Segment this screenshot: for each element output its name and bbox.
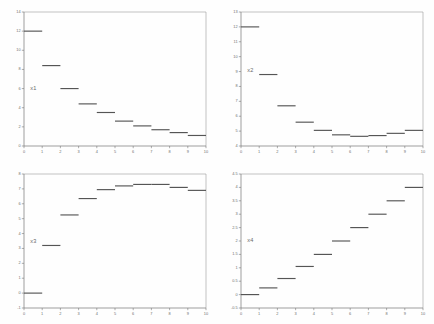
y-tick-label: 2	[235, 238, 237, 243]
x-tick-label: 8	[386, 311, 388, 316]
x-tick-label: 10	[421, 311, 426, 316]
x-tick-label: 5	[114, 311, 116, 316]
y-tick-label: 5	[235, 128, 237, 133]
x-tick-label: 9	[187, 149, 189, 154]
x-tick-label: 8	[386, 149, 388, 154]
x-tick-label: 4	[96, 311, 99, 316]
y-tick-label: 6	[18, 86, 20, 91]
y-tick-label: 2	[18, 260, 20, 265]
series-x1	[24, 31, 206, 135]
y-tick-label: 14	[16, 9, 21, 14]
x-tick-label: 10	[204, 149, 209, 154]
x-tick-label: 1	[41, 149, 43, 154]
y-tick-label: 13	[233, 9, 237, 14]
x-tick-label: 4	[313, 149, 316, 154]
y-tick-label: 6	[235, 113, 237, 118]
x-tick-label: 4	[96, 149, 99, 154]
y-tick-label: -1	[17, 305, 20, 310]
x-tick-label: 2	[59, 149, 61, 154]
y-tick-label: 5	[18, 216, 20, 221]
x-tick-label: 1	[258, 311, 260, 316]
y-tick-label: 4	[235, 184, 238, 189]
series-label-x3: x3	[30, 238, 36, 244]
x-tick-label: 0	[240, 311, 243, 316]
y-tick-label: 6	[18, 201, 20, 206]
plot-frame	[241, 12, 423, 146]
y-tick-label: 0	[235, 292, 238, 297]
x-tick-label: 7	[150, 149, 152, 154]
chart-panel-x4: -0.500.511.522.533.544.5012345678910x4	[217, 162, 434, 324]
x-tick-label: 7	[150, 311, 152, 316]
chart-svg-x1: 02468101214012345678910x1	[0, 0, 217, 162]
y-tick-label: 0.5	[232, 278, 237, 283]
y-tick-label: 1.5	[232, 251, 237, 256]
x-tick-label: 0	[23, 149, 26, 154]
series-label-x4: x4	[247, 237, 253, 243]
x-tick-label: 0	[240, 149, 243, 154]
series-x2	[241, 27, 423, 136]
x-tick-label: 6	[132, 311, 134, 316]
y-tick-label: 3	[235, 211, 237, 216]
series-x4	[241, 187, 423, 294]
x-tick-label: 4	[313, 311, 316, 316]
axis-spines	[24, 174, 206, 308]
y-tick-label: 4	[18, 105, 21, 110]
y-tick-label: 12	[233, 24, 237, 29]
y-tick-label: 3.5	[232, 198, 237, 203]
x-tick-label: 6	[132, 149, 134, 154]
x-tick-label: 2	[276, 311, 278, 316]
y-tick-label: 8	[18, 171, 20, 176]
y-tick-label: 7	[18, 186, 20, 191]
y-tick-label: 12	[16, 28, 20, 33]
plot-frame	[24, 174, 206, 308]
figure-canvas: 02468101214012345678910x1 45678910111213…	[0, 0, 434, 324]
plot-frame	[24, 12, 206, 146]
y-tick-label: 1	[235, 265, 237, 270]
x-tick-label: 1	[41, 311, 43, 316]
chart-svg-x3: -1012345678012345678910x3	[0, 162, 217, 324]
x-tick-label: 2	[59, 311, 61, 316]
x-tick-label: 8	[169, 311, 171, 316]
y-tick-label: 4	[18, 231, 21, 236]
x-tick-label: 3	[78, 149, 80, 154]
x-tick-label: 6	[349, 149, 351, 154]
x-tick-label: 1	[258, 149, 260, 154]
series-x3	[24, 184, 206, 293]
y-tick-label: 11	[234, 39, 238, 44]
series-label-x2: x2	[247, 67, 253, 73]
x-tick-label: 3	[78, 311, 80, 316]
chart-panel-x2: 45678910111213012345678910x2	[217, 0, 434, 162]
y-tick-label: 0	[18, 290, 21, 295]
series-label-x1: x1	[30, 85, 36, 91]
x-tick-label: 6	[349, 311, 351, 316]
axis-spines	[24, 12, 206, 146]
x-tick-label: 8	[169, 149, 171, 154]
y-tick-label: 1	[18, 275, 20, 280]
x-tick-label: 9	[404, 149, 406, 154]
x-tick-label: 9	[187, 311, 189, 316]
x-tick-label: 10	[204, 311, 209, 316]
x-tick-label: 5	[331, 311, 333, 316]
x-tick-label: 2	[276, 149, 278, 154]
chart-panel-x3: -1012345678012345678910x3	[0, 162, 217, 324]
x-tick-label: 5	[114, 149, 116, 154]
y-tick-label: 8	[235, 83, 237, 88]
x-tick-label: 7	[367, 149, 369, 154]
y-tick-label: 4	[235, 143, 238, 148]
y-tick-label: 2.5	[232, 225, 237, 230]
y-tick-label: 4.5	[232, 171, 237, 176]
y-tick-label: 10	[233, 54, 238, 59]
x-tick-label: 3	[295, 311, 297, 316]
x-tick-label: 3	[295, 149, 297, 154]
chart-panel-x1: 02468101214012345678910x1	[0, 0, 217, 162]
y-tick-label: 8	[18, 66, 20, 71]
x-tick-label: 0	[23, 311, 26, 316]
y-tick-label: 0	[18, 143, 21, 148]
x-tick-label: 10	[421, 149, 426, 154]
y-tick-label: 2	[18, 124, 20, 129]
chart-svg-x4: -0.500.511.522.533.544.5012345678910x4	[217, 162, 434, 324]
y-tick-label: 10	[16, 47, 21, 52]
x-tick-label: 9	[404, 311, 406, 316]
y-tick-label: 7	[235, 98, 237, 103]
axis-spines	[241, 12, 423, 146]
